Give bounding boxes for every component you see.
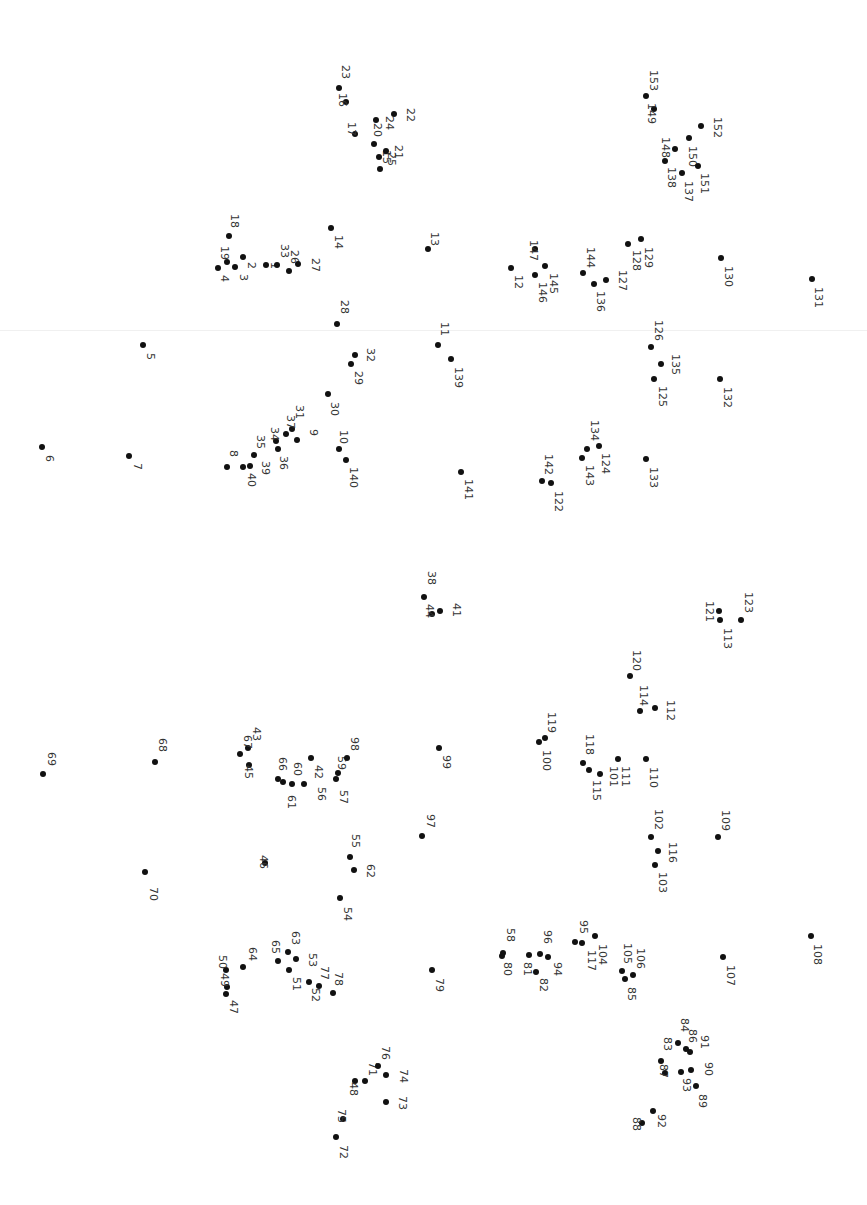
dot-153[interactable] xyxy=(643,93,649,99)
dot-151[interactable] xyxy=(695,163,701,169)
dot-7[interactable] xyxy=(126,453,132,459)
dot-110[interactable] xyxy=(643,756,649,762)
dot-27[interactable] xyxy=(295,261,301,267)
dot-93[interactable] xyxy=(678,1069,684,1075)
dot-13[interactable] xyxy=(425,246,431,252)
dot-129[interactable] xyxy=(638,236,644,242)
dot-133[interactable] xyxy=(643,456,649,462)
dot-70[interactable] xyxy=(142,869,148,875)
dot-64[interactable] xyxy=(240,964,246,970)
dot-79[interactable] xyxy=(429,967,435,973)
dot-76[interactable] xyxy=(375,1063,381,1069)
dot-116[interactable] xyxy=(655,848,661,854)
dot-126[interactable] xyxy=(648,344,654,350)
dot-61[interactable] xyxy=(280,779,286,785)
dot-40[interactable] xyxy=(240,464,246,470)
dot-33[interactable] xyxy=(274,262,280,268)
dot-115[interactable] xyxy=(586,767,592,773)
dot-47[interactable] xyxy=(223,991,229,997)
dot-140[interactable] xyxy=(343,457,349,463)
dot-144[interactable] xyxy=(580,270,586,276)
dot-10[interactable] xyxy=(336,446,342,452)
dot-113[interactable] xyxy=(717,617,723,623)
dot-51[interactable] xyxy=(286,967,292,973)
dot-90[interactable] xyxy=(688,1067,694,1073)
dot-127[interactable] xyxy=(603,277,609,283)
dot-54[interactable] xyxy=(337,895,343,901)
dot-132[interactable] xyxy=(717,376,723,382)
dot-6[interactable] xyxy=(39,444,45,450)
dot-28[interactable] xyxy=(334,321,340,327)
dot-101[interactable] xyxy=(597,771,603,777)
dot-72[interactable] xyxy=(333,1134,339,1140)
dot-32[interactable] xyxy=(352,352,358,358)
dot-60[interactable] xyxy=(289,781,295,787)
dot-59[interactable] xyxy=(335,770,341,776)
dot-41[interactable] xyxy=(437,608,443,614)
dot-89[interactable] xyxy=(693,1083,699,1089)
dot-82[interactable] xyxy=(533,969,539,975)
dot-14[interactable] xyxy=(328,225,334,231)
dot-74[interactable] xyxy=(383,1072,389,1078)
dot-55[interactable] xyxy=(347,854,353,860)
dot-5[interactable] xyxy=(140,342,146,348)
dot-124[interactable] xyxy=(596,443,602,449)
dot-24[interactable] xyxy=(373,117,379,123)
dot-73[interactable] xyxy=(383,1099,389,1105)
dot-105[interactable] xyxy=(619,968,625,974)
dot-106[interactable] xyxy=(630,972,636,978)
dot-148[interactable] xyxy=(672,146,678,152)
dot-68[interactable] xyxy=(152,759,158,765)
dot-130[interactable] xyxy=(718,255,724,261)
dot-131[interactable] xyxy=(809,276,815,282)
dot-26[interactable] xyxy=(286,268,292,274)
dot-35[interactable] xyxy=(251,452,257,458)
dot-136[interactable] xyxy=(591,281,597,287)
dot-103[interactable] xyxy=(652,862,658,868)
dot-112[interactable] xyxy=(652,705,658,711)
dot-57[interactable] xyxy=(333,776,339,782)
dot-150[interactable] xyxy=(686,135,692,141)
dot-96[interactable] xyxy=(537,951,543,957)
dot-94[interactable] xyxy=(545,954,551,960)
dot-95[interactable] xyxy=(572,939,578,945)
dot-114[interactable] xyxy=(637,708,643,714)
dot-118[interactable] xyxy=(580,760,586,766)
dot-104[interactable] xyxy=(592,933,598,939)
dot-69[interactable] xyxy=(40,771,46,777)
dot-9[interactable] xyxy=(294,437,300,443)
dot-78[interactable] xyxy=(330,990,336,996)
dot-63[interactable] xyxy=(285,949,291,955)
dot-20[interactable] xyxy=(371,141,377,147)
dot-56[interactable] xyxy=(301,781,307,787)
dot-12[interactable] xyxy=(508,265,514,271)
dot-37[interactable] xyxy=(283,431,289,437)
dot-111[interactable] xyxy=(615,756,621,762)
dot-125[interactable] xyxy=(651,376,657,382)
dot-15[interactable] xyxy=(377,166,383,172)
dot-91[interactable] xyxy=(687,1049,693,1055)
dot-3[interactable] xyxy=(232,264,238,270)
dot-143[interactable] xyxy=(579,455,585,461)
dot-52[interactable] xyxy=(306,979,312,985)
dot-8[interactable] xyxy=(224,464,230,470)
dot-29[interactable] xyxy=(348,361,354,367)
dot-142[interactable] xyxy=(539,478,545,484)
dot-11[interactable] xyxy=(435,342,441,348)
dot-71[interactable] xyxy=(362,1078,368,1084)
dot-152[interactable] xyxy=(698,123,704,129)
dot-39[interactable] xyxy=(247,463,253,469)
dot-23[interactable] xyxy=(336,85,342,91)
dot-77[interactable] xyxy=(316,983,322,989)
dot-137[interactable] xyxy=(679,170,685,176)
dot-141[interactable] xyxy=(458,469,464,475)
dot-122[interactable] xyxy=(548,480,554,486)
dot-2[interactable] xyxy=(240,254,246,260)
dot-18[interactable] xyxy=(226,233,232,239)
dot-139[interactable] xyxy=(448,356,454,362)
dot-99[interactable] xyxy=(436,745,442,751)
dot-117[interactable] xyxy=(579,940,585,946)
dot-109[interactable] xyxy=(715,834,721,840)
dot-66[interactable] xyxy=(275,776,281,782)
dot-135[interactable] xyxy=(658,361,664,367)
